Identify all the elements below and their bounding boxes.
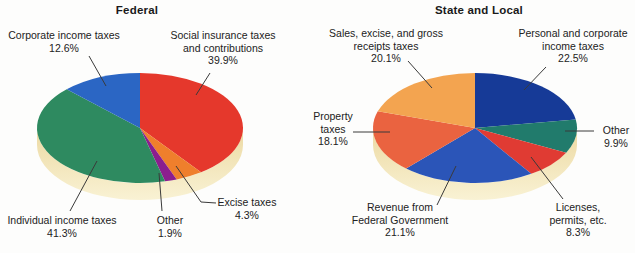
slice-label-text: Individual income taxes	[7, 214, 116, 227]
slice-label-sales-excise-and-gross-receipts-taxes: Sales, excise, and grossreceipts taxes20…	[329, 27, 443, 65]
slice-label-text: Licenses,	[549, 201, 606, 214]
slice-label-text: Revenue from	[352, 201, 448, 214]
slice-percentage: 20.1%	[329, 52, 443, 65]
slice-label-text: permits, etc.	[549, 214, 606, 227]
slice-label-revenue-from-federal-government: Revenue fromFederal Government21.1%	[352, 201, 448, 239]
slice-label-other: Other9.9%	[603, 124, 629, 149]
slice-label-text: Social insurance taxes	[170, 29, 275, 42]
slice-label-other: Other1.9%	[157, 214, 183, 239]
slice-label-text: Property	[313, 110, 353, 123]
slice-label-individual-income-taxes: Individual income taxes41.3%	[7, 214, 116, 239]
figure-dual-pie-charts: Federal State and Local Social insurance…	[0, 0, 635, 253]
slice-percentage: 4.3%	[218, 209, 277, 222]
slice-label-text: receipts taxes	[329, 40, 443, 53]
slice-label-excise-taxes: Excise taxes4.3%	[218, 196, 277, 221]
slice-percentage: 21.1%	[352, 226, 448, 239]
slice-label-personal-and-corporate-income-taxes: Personal and corporateincome taxes22.5%	[518, 27, 627, 65]
slice-label-text: Excise taxes	[218, 196, 277, 209]
slice-label-text: Sales, excise, and gross	[329, 27, 443, 40]
slice-percentage: 39.9%	[170, 54, 275, 67]
slice-percentage: 22.5%	[518, 52, 627, 65]
chart-title-state-and-local: State and Local	[435, 4, 523, 16]
pie-slice-personal-and-corporate-income-taxes	[475, 73, 576, 128]
slice-label-text: and contributions	[170, 42, 275, 55]
slice-label-social-insurance-taxes-and-contributions: Social insurance taxesand contributions3…	[170, 29, 275, 67]
slice-percentage: 1.9%	[157, 227, 183, 240]
slice-label-text: Personal and corporate	[518, 27, 627, 40]
slice-label-licenses-permits-etc: Licenses,permits, etc.8.3%	[549, 201, 606, 239]
slice-percentage: 18.1%	[313, 135, 353, 148]
slice-percentage: 8.3%	[549, 226, 606, 239]
slice-label-text: Corporate income taxes	[8, 29, 119, 42]
slice-label-text: taxes	[313, 123, 353, 136]
slice-label-text: Other	[157, 214, 183, 227]
slice-label-text: income taxes	[518, 40, 627, 53]
slice-percentage: 41.3%	[7, 227, 116, 240]
slice-label-text: Federal Government	[352, 214, 448, 227]
chart-title-federal: Federal	[116, 4, 158, 16]
slice-percentage: 12.6%	[8, 42, 119, 55]
slice-label-property-taxes: Propertytaxes18.1%	[313, 110, 353, 148]
slice-percentage: 9.9%	[603, 137, 629, 150]
slice-label-text: Other	[603, 124, 629, 137]
slice-label-corporate-income-taxes: Corporate income taxes12.6%	[8, 29, 119, 54]
